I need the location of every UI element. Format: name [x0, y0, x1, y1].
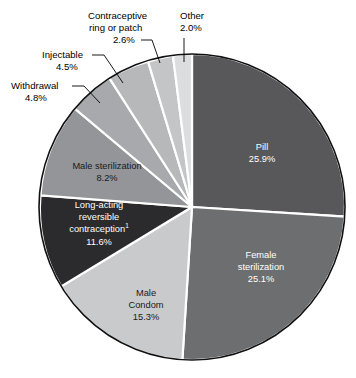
label-larc-value: 11.6% [86, 237, 112, 247]
pie-chart-svg: Pill 25.9% Female sterilization 25.1% Ma… [0, 0, 356, 378]
label-condom-l2: Condom [128, 300, 163, 310]
label-female-value: 25.1% [248, 274, 274, 284]
slice-pill[interactable] [192, 54, 345, 217]
label-pill-value: 25.9% [249, 154, 275, 164]
label-withdrawal-name: Withdrawal [11, 80, 58, 91]
label-female-l2: sterilization [238, 262, 285, 272]
label-larc-l2: reversible [79, 212, 119, 222]
label-larc-l1: Long-acting [75, 200, 124, 210]
label-withdrawal-value: 4.8% [25, 92, 47, 103]
label-larc-footnote-marker: 1 [125, 222, 129, 229]
label-ring-l1: Contraceptive [88, 10, 147, 21]
pie-chart-figure: Pill 25.9% Female sterilization 25.1% Ma… [0, 0, 356, 378]
label-malester-name: Male sterilization [72, 161, 141, 171]
label-ring-l2: ring or patch [89, 22, 142, 33]
label-larc-l3-text: contraception [69, 224, 125, 234]
label-female-l1: Female [245, 250, 276, 260]
label-condom-value: 15.3% [133, 312, 159, 322]
label-other-value: 2.0% [180, 22, 202, 33]
label-condom-l1: Male [136, 288, 156, 298]
label-malester-value: 8.2% [96, 173, 117, 183]
label-larc-l3: contraception1 [69, 222, 129, 234]
label-pill-name: Pill [256, 142, 268, 152]
label-injectable-name: Injectable [42, 49, 83, 60]
label-injectable-value: 4.5% [56, 61, 78, 72]
label-ring-value: 2.6% [113, 34, 135, 45]
label-other-name: Other [180, 10, 205, 21]
